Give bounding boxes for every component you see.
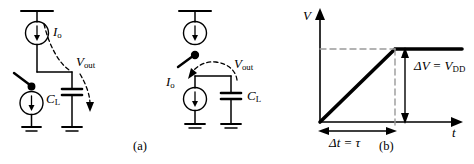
circuit-discharging [178,11,241,128]
circuit1-current-source-label: Io [53,25,62,40]
panel-a-caption: (a) [133,140,147,153]
figure-vector-layer [0,0,474,164]
circuit2-vout-label: Vout [234,57,253,72]
circuit1-vout-label: Vout [76,55,95,70]
circuit2-current-source-label: Io [166,75,175,90]
circuit2-load-cap-label: CL [247,89,261,104]
circuit-charging [14,11,82,131]
delta-t-label: Δt = τ [329,136,360,149]
circuit1-load-cap-label: CL [46,92,60,107]
current-flow-arrowhead-1 [86,102,94,112]
figure-container: Io Vout CL Io Vout CL V t ΔV = VDD Δt = … [0,0,474,164]
y-axis-arrowhead [315,8,325,20]
y-axis-label: V [303,9,311,22]
panel-b-caption: (b) [379,140,394,153]
delta-v-label: ΔV = VDD [414,59,465,74]
x-axis-label: t [452,126,456,139]
